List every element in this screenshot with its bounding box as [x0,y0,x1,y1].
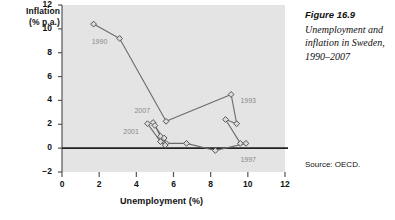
data-point-marker [228,92,234,98]
source-note: Source: OECD. [305,160,395,169]
x-tick-label: 2 [90,179,108,189]
year-annotation: 1990 [92,38,108,45]
x-tick-label: 10 [239,179,257,189]
year-annotation: 2001 [123,128,139,135]
data-point-marker [163,118,169,124]
data-point-marker [184,140,190,146]
x-tick-label: 0 [53,179,71,189]
data-point-marker [234,121,240,127]
figure-caption-text: Unemployment and inflation in Sweden, 19… [305,24,385,62]
series-line [94,24,246,150]
y-tick-label: 2 [34,118,52,128]
data-point-marker [91,21,97,27]
data-point-marker [223,117,229,123]
y-tick-label: 0 [34,142,52,152]
y-tick-label: 6 [34,71,52,81]
y-tick-label: 10 [34,23,52,33]
x-axis-title: Unemployment (%) [120,196,295,207]
data-point-marker [243,140,249,146]
year-annotation: 2007 [134,107,150,114]
figure-caption: Figure 16.9 Unemployment and inflation i… [305,8,393,63]
year-annotation: 1997 [240,156,256,163]
y-tick-label: 12 [34,0,52,9]
data-point-marker [117,36,123,42]
figure-number: Figure 16.9 [305,8,393,22]
x-tick-label: 12 [276,179,294,189]
y-tick-label: 8 [34,47,52,57]
x-tick-label: 8 [202,179,220,189]
figure-screenshot: Inflation (% p.a.) Unemployment (%) 1210… [0,0,395,220]
year-annotation: 1993 [240,97,256,104]
y-tick-label: −2 [34,166,52,176]
x-tick-label: 4 [127,179,145,189]
chart-figure: Inflation (% p.a.) Unemployment (%) 1210… [0,0,300,220]
y-tick-label: 4 [34,94,52,104]
x-tick-label: 6 [165,179,183,189]
